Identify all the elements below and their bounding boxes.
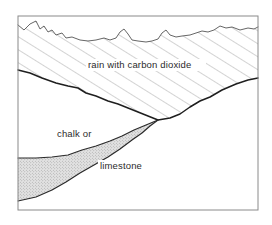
- rain-label: rain with carbon dioxide: [88, 59, 191, 70]
- cross-section-drawing: rain with carbon dioxide chalk or limest…: [0, 0, 272, 225]
- limestone-label: limestone: [100, 160, 142, 171]
- geological-cross-section-figure: rain with carbon dioxide chalk or limest…: [0, 0, 272, 225]
- chalk-label: chalk or: [57, 128, 91, 139]
